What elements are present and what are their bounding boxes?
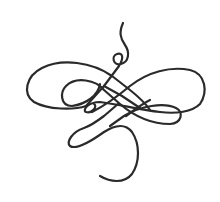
ornament-canvas [0, 0, 220, 202]
flourish-ornament-icon [0, 0, 220, 202]
right-loop-stroke [85, 69, 205, 113]
inner-left-loop-stroke [62, 80, 181, 126]
